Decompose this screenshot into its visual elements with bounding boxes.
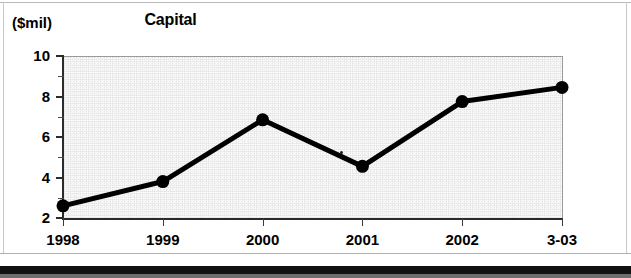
y-axis-tick-label: 10 — [4, 47, 50, 64]
plot-background-texture — [63, 57, 562, 219]
y-axis-tick-label: 2 — [4, 209, 50, 226]
x-axis-line — [62, 218, 563, 220]
y-axis-tick-label: 8 — [4, 88, 50, 105]
x-axis-tick — [362, 218, 363, 226]
plot-area — [63, 56, 563, 219]
y-axis-tick-label: 4 — [4, 169, 50, 186]
x-axis-tick — [562, 218, 563, 226]
x-axis-tick — [263, 218, 264, 226]
y-axis-tick-major — [56, 136, 64, 138]
y-axis-tick-label: 6 — [4, 128, 50, 145]
x-axis-tick-label: 3-03 — [517, 231, 607, 248]
x-axis-tick — [163, 218, 164, 226]
y-axis-tick-major — [56, 96, 64, 98]
x-axis-tick — [63, 218, 64, 226]
page-bottom-bar — [0, 266, 631, 274]
y-axis-tick-minor — [58, 117, 64, 118]
x-axis-tick-label: 2001 — [317, 231, 407, 248]
x-axis-tick-label: 1998 — [18, 231, 108, 248]
frame-top-border — [0, 2, 631, 3]
y-axis-tick-minor — [58, 76, 64, 77]
x-axis-tick — [462, 218, 463, 226]
chart-page: ($mil) Capital 246810 199819992000200120… — [0, 0, 631, 278]
scan-artifact-speck — [340, 151, 343, 154]
x-axis-tick-label: 1999 — [118, 231, 208, 248]
page-bottom-bar-shade — [0, 274, 631, 278]
frame-bottom-border — [0, 253, 631, 254]
frame-right-border — [626, 2, 627, 253]
y-axis-tick-major — [56, 177, 64, 179]
y-axis-tick-minor — [58, 198, 64, 199]
x-axis-tick-label: 2002 — [417, 231, 507, 248]
chart-title: Capital — [0, 11, 631, 29]
y-axis-tick-minor — [58, 157, 64, 158]
x-axis-tick-label: 2000 — [218, 231, 308, 248]
y-axis-tick-major — [56, 55, 64, 57]
